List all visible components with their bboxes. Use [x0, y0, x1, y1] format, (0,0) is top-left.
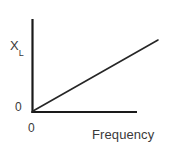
y-axis-label-symbol: X [10, 38, 19, 53]
x-axis-title: Frequency [92, 128, 154, 141]
y-axis-label: XL [10, 39, 24, 56]
x-axis-origin-label: 0 [28, 122, 35, 134]
data-series-line [33, 40, 158, 111]
inductive-reactance-vs-frequency-figure: XL 0 0 Frequency [0, 0, 169, 154]
y-axis-origin-label: 0 [15, 101, 22, 113]
y-axis-label-subscript: L [19, 48, 24, 58]
